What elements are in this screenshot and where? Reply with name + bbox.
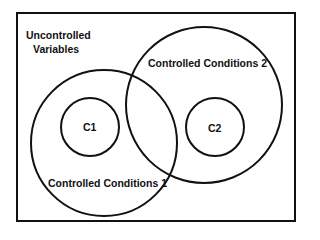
uncontrolled-label-line1: Uncontrolled <box>26 29 91 42</box>
uncontrolled-label-line2: Variables <box>33 43 79 56</box>
c2-label: C2 <box>208 122 221 135</box>
controlled-conditions-1-label: Controlled Conditions 1 <box>48 177 167 190</box>
controlled-conditions-2-label: Controlled Conditions 2 <box>148 57 267 70</box>
controlled-conditions-1-circle <box>31 70 177 216</box>
controlled-conditions-2-circle <box>126 27 282 183</box>
c1-label: C1 <box>83 121 96 134</box>
